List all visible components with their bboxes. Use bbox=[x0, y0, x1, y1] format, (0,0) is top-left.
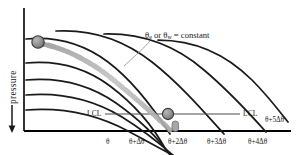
lcl-label-right: LCL bbox=[243, 110, 258, 117]
x-axis-tick-1: θ+Δθ bbox=[129, 139, 145, 146]
x-axis-tick-2: θ+2Δθ bbox=[168, 139, 187, 146]
parcel-lcl-marker bbox=[162, 108, 173, 119]
lcl-label-left: LCL bbox=[87, 110, 102, 117]
isentrope-curves bbox=[26, 38, 182, 155]
x-axis-tick-3: θ+3Δθ bbox=[207, 139, 226, 146]
x-axis-tick-4: θ+4Δθ bbox=[248, 139, 267, 146]
y-axis-label: pressure bbox=[9, 70, 18, 104]
parcel-surface-marker bbox=[172, 121, 179, 132]
thermodynamic-diagram: pressure θe or θw = constant LCL LCL θ+5… bbox=[0, 0, 306, 155]
x-axis-tick-0: θ bbox=[106, 139, 109, 146]
parcel-trajectory bbox=[38, 43, 170, 130]
annotation-constant: = constant bbox=[172, 30, 210, 40]
parcel-origin-marker bbox=[32, 36, 44, 48]
pressure-arrow-icon bbox=[9, 105, 16, 133]
isentrope-curve-7 bbox=[104, 34, 266, 132]
isentrope-curve-4 bbox=[26, 94, 176, 155]
annotation-or: or θ bbox=[152, 30, 168, 40]
annotation-leader-line bbox=[124, 41, 150, 66]
isentrope-label-theta-plus-5: θ+5Δθ bbox=[265, 117, 284, 124]
trajectory-annotation: θe or θw = constant bbox=[145, 31, 210, 40]
isentrope-curve-1 bbox=[26, 38, 170, 134]
